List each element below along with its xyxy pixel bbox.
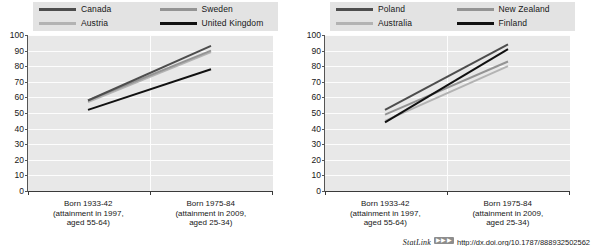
- legend-label-austria: Austria: [81, 19, 108, 28]
- x-category-line: aged 55-64): [364, 218, 407, 227]
- legend-left: Canada Sweden Austria United Kingdom: [33, 2, 278, 31]
- legend-label-australia: Australia: [378, 19, 412, 28]
- y-tick-label: 60: [15, 93, 24, 102]
- series-line-canada: [88, 46, 211, 101]
- legend-swatch-poland: [336, 8, 373, 11]
- legend-item-new-zealand[interactable]: New Zealand: [453, 5, 574, 14]
- y-tick-label: 20: [15, 156, 24, 165]
- series-line-poland: [385, 44, 508, 110]
- plot-wrap-left: 100 90 80 70 60 50 40 30 20 10 0: [0, 33, 297, 193]
- legend-item-austria[interactable]: Austria: [35, 19, 156, 28]
- x-category-line: aged 25-34): [189, 218, 232, 227]
- y-tick-label: 0: [19, 187, 24, 196]
- y-tick-label: 80: [15, 62, 24, 71]
- y-tick-label: 30: [312, 140, 321, 149]
- y-tick-label: 50: [15, 109, 24, 118]
- legend-swatch-new-zealand: [457, 8, 494, 11]
- legend-item-canada[interactable]: Canada: [35, 5, 156, 14]
- legend-item-united-kingdom[interactable]: United Kingdom: [156, 19, 277, 28]
- x-tick: [569, 191, 570, 195]
- statlink-label: StatLink: [403, 238, 431, 246]
- y-tick-label: 10: [15, 171, 24, 180]
- y-tick-label: 50: [312, 109, 321, 118]
- x-axis-captions-left: Born 1933-42 (attainment in 1997, aged 5…: [27, 199, 272, 233]
- statlink: StatLink▶▶▶http://dx.doi.org/10.1787/888…: [0, 231, 594, 246]
- legend-label-finland: Finland: [499, 19, 528, 28]
- x-category-line: (attainment in 2009,: [175, 209, 246, 218]
- series-line-finland: [385, 49, 508, 122]
- x-category-line: Born 1933-42: [361, 199, 409, 208]
- x-category-label-1: Born 1933-42 (attainment in 1997, aged 5…: [324, 199, 447, 233]
- series-line-new-zealand: [385, 62, 508, 115]
- legend-item-sweden[interactable]: Sweden: [156, 5, 277, 14]
- x-tick: [447, 191, 448, 195]
- series-line-austria: [88, 52, 211, 102]
- y-tick-label: 40: [15, 125, 24, 134]
- statlink-url[interactable]: http://dx.doi.org/10.1787/888932502562: [457, 238, 590, 246]
- y-tick-label: 70: [15, 78, 24, 87]
- legend-swatch-finland: [457, 22, 494, 25]
- legend-label-canada: Canada: [81, 5, 111, 14]
- x-category-line: aged 55-64): [67, 218, 110, 227]
- x-category-label-2: Born 1975-84 (attainment in 2009, aged 2…: [150, 199, 273, 233]
- y-tick-label: 90: [15, 47, 24, 56]
- legend-right: Poland New Zealand Australia Finland: [330, 2, 575, 31]
- legend-item-poland[interactable]: Poland: [332, 5, 453, 14]
- y-tick-label: 60: [312, 93, 321, 102]
- figure-container: Canada Sweden Austria United Kingdom 100…: [0, 0, 594, 246]
- legend-item-finland[interactable]: Finland: [453, 19, 574, 28]
- legend-item-australia[interactable]: Australia: [332, 19, 453, 28]
- x-category-line: (attainment in 2009,: [472, 209, 543, 218]
- chart-panel-left: Canada Sweden Austria United Kingdom 100…: [0, 0, 297, 228]
- series-lines-left: [28, 35, 273, 191]
- legend-label-new-zealand: New Zealand: [499, 5, 550, 14]
- plot-area-left: [27, 35, 273, 192]
- x-tick: [150, 191, 151, 195]
- x-category-label-1: Born 1933-42 (attainment in 1997, aged 5…: [27, 199, 150, 233]
- x-category-line: (attainment in 1997,: [53, 209, 124, 218]
- series-lines-right: [325, 35, 570, 191]
- x-category-line: aged 25-34): [486, 218, 529, 227]
- x-tick: [325, 191, 326, 195]
- statlink-badge-icon: ▶▶▶: [434, 237, 454, 244]
- y-tick-label: 80: [312, 62, 321, 71]
- y-tick-label: 100: [307, 31, 321, 40]
- plot-area-right: [324, 35, 570, 192]
- x-tick: [28, 191, 29, 195]
- x-tick: [272, 191, 273, 195]
- x-axis-captions-right: Born 1933-42 (attainment in 1997, aged 5…: [324, 199, 569, 233]
- y-tick-label: 40: [312, 125, 321, 134]
- legend-swatch-australia: [336, 22, 373, 25]
- chart-panel-right: Poland New Zealand Australia Finland 100…: [297, 0, 594, 228]
- legend-label-poland: Poland: [378, 5, 405, 14]
- x-category-line: Born 1975-84: [484, 199, 532, 208]
- legend-label-sweden: Sweden: [202, 5, 233, 14]
- x-category-label-2: Born 1975-84 (attainment in 2009, aged 2…: [447, 199, 570, 233]
- legend-swatch-sweden: [160, 8, 197, 11]
- x-category-line: (attainment in 1997,: [350, 209, 421, 218]
- plot-wrap-right: 100 90 80 70 60 50 40 30 20 10 0: [297, 33, 594, 193]
- legend-label-united-kingdom: United Kingdom: [202, 19, 264, 28]
- legend-swatch-united-kingdom: [160, 22, 197, 25]
- y-tick-label: 20: [312, 156, 321, 165]
- y-tick-label: 30: [15, 140, 24, 149]
- series-line-australia: [385, 66, 508, 121]
- y-axis-labels-left: 100 90 80 70 60 50 40 30 20 10 0: [0, 33, 24, 193]
- x-category-line: Born 1933-42: [64, 199, 112, 208]
- y-tick-label: 100: [10, 31, 24, 40]
- legend-swatch-austria: [39, 22, 76, 25]
- y-tick-label: 90: [312, 47, 321, 56]
- y-tick-label: 0: [316, 187, 321, 196]
- y-tick-label: 70: [312, 78, 321, 87]
- legend-swatch-canada: [39, 8, 76, 11]
- x-category-line: Born 1975-84: [187, 199, 235, 208]
- y-tick-label: 10: [312, 171, 321, 180]
- y-axis-labels-right: 100 90 80 70 60 50 40 30 20 10 0: [297, 33, 321, 193]
